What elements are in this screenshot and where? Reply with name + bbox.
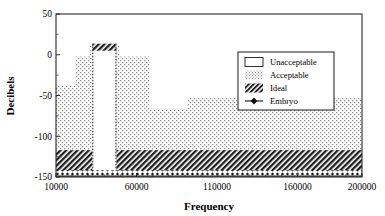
y-tick-label: -150: [35, 172, 53, 182]
legend-swatch-acceptable-icon: [245, 71, 263, 80]
frequency-decibels-chart: 500-50-100-150 1000060000110000160000200…: [0, 0, 385, 216]
chart-container: 500-50-100-150 1000060000110000160000200…: [0, 0, 385, 216]
legend-swatch-ideal-icon: [245, 84, 263, 93]
x-tick-label: 10000: [44, 182, 68, 192]
x-tick-label: 60000: [125, 182, 149, 192]
y-tick-label: 0: [47, 50, 52, 60]
series-embryo-trace: [56, 170, 362, 175]
notch-cap-hatch: [92, 44, 116, 51]
legend-label-acceptable: Acceptable: [270, 70, 309, 80]
x-tick-label: 160000: [283, 182, 312, 192]
y-tick-label: -100: [35, 132, 53, 142]
x-tick-label: 200000: [348, 182, 377, 192]
x-tick-label: 110000: [203, 182, 231, 192]
chart-legend[interactable]: Unacceptable Acceptable Ideal Embryo: [238, 52, 334, 110]
legend-label-unacceptable: Unacceptable: [270, 57, 317, 67]
series-unacceptable-notch: [92, 51, 116, 172]
y-tick-label: 50: [43, 9, 53, 19]
legend-entry-acceptable[interactable]: Acceptable: [245, 70, 309, 80]
legend-label-embryo: Embryo: [270, 96, 298, 106]
y-axis-title: Decibels: [4, 76, 16, 116]
y-tick-label: -50: [39, 91, 52, 101]
legend-label-ideal: Ideal: [270, 83, 288, 93]
x-axis-title: Frequency: [184, 200, 234, 212]
